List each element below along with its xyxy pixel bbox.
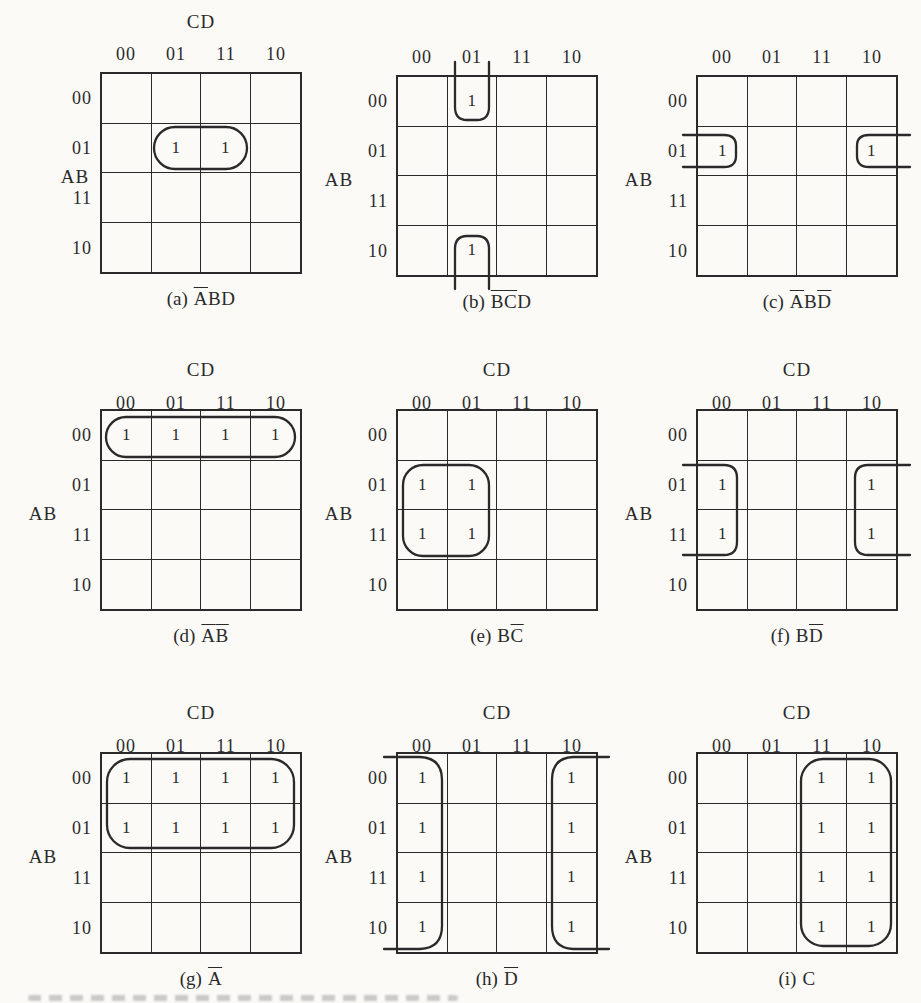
kmap-c: 00011110 AB 00011110 11 (c)ABD	[602, 14, 909, 316]
col-axis-label: CD	[697, 359, 897, 381]
negated-variable: A	[194, 288, 208, 309]
group-loops	[673, 729, 921, 977]
group-loop	[107, 759, 294, 848]
group-loop	[455, 236, 489, 289]
group-loops	[373, 52, 621, 300]
variable: C	[802, 968, 815, 989]
caption: (h)D	[397, 967, 597, 991]
group-loops	[77, 729, 325, 977]
kmap-h: CD 00011110 AB 00011110 11111111 (h)D	[302, 691, 609, 993]
caption-index: (h)	[476, 968, 498, 989]
variable: B	[208, 288, 221, 309]
group-loops	[373, 729, 621, 977]
caption-expression: ABD	[194, 288, 236, 309]
variable: B	[804, 291, 817, 312]
group-loop	[384, 757, 442, 949]
cropped-print-remnant	[28, 995, 458, 1001]
group-loop	[154, 127, 247, 169]
caption-expression: ABD	[790, 291, 832, 312]
negated-variable: D	[504, 968, 518, 989]
group-loops	[673, 386, 921, 634]
negated-variable: C	[504, 291, 517, 312]
caption: (f)BD	[697, 624, 897, 648]
variable: D	[221, 288, 235, 309]
caption-expression: BCD	[491, 291, 532, 312]
group-loops	[673, 52, 921, 300]
group-loop	[683, 465, 737, 555]
caption: (g)A	[101, 967, 301, 991]
col-axis-label: CD	[397, 359, 597, 381]
caption-expression: BD	[796, 625, 823, 646]
group-loop	[552, 757, 609, 949]
caption: (a)ABD	[101, 287, 301, 311]
group-loop	[455, 62, 489, 120]
group-loop	[855, 465, 910, 555]
variable: D	[517, 291, 531, 312]
group-loop	[801, 759, 891, 946]
kmap-a: CD 00011110 AB 00011110 11 (a)ABD	[6, 11, 313, 313]
negated-variable: A	[208, 968, 222, 989]
kmap-d: CD 00011110 AB 00011110 1111 (d)AB	[6, 348, 313, 650]
caption-expression: AB	[201, 625, 228, 646]
caption-index: (g)	[180, 968, 202, 989]
group-loops	[77, 49, 325, 297]
kmap-g: CD 00011110 AB 00011110 11111111 (g)A	[6, 691, 313, 993]
caption-expression: BC	[497, 625, 523, 646]
col-axis-label: CD	[397, 702, 597, 724]
caption: (c)ABD	[697, 290, 897, 314]
negated-variable: D	[809, 625, 823, 646]
caption: (d)AB	[101, 624, 301, 648]
negated-variable: A	[201, 625, 215, 646]
kmap-i: CD 00011110 AB 00011110 11111111 (i)C	[602, 691, 909, 993]
col-axis-label: CD	[101, 702, 301, 724]
caption: (e)BC	[397, 624, 597, 648]
col-axis-label: CD	[101, 359, 301, 381]
variable: B	[497, 625, 510, 646]
group-loop	[683, 135, 736, 167]
caption-expression: A	[208, 968, 222, 989]
caption-index: (f)	[771, 625, 790, 646]
variable: B	[796, 625, 809, 646]
kmap-f: CD 00011110 AB 00011110 1111 (f)BD	[602, 348, 909, 650]
group-loops	[373, 386, 621, 634]
caption-index: (c)	[763, 291, 784, 312]
group-loop	[106, 417, 295, 457]
caption-index: (a)	[167, 288, 188, 309]
caption-expression: D	[504, 968, 518, 989]
col-axis-label: CD	[697, 702, 897, 724]
negated-variable: C	[511, 625, 524, 646]
caption-index: (i)	[778, 968, 796, 989]
caption-expression: C	[802, 968, 815, 989]
caption-index: (b)	[463, 291, 485, 312]
caption-index: (d)	[173, 625, 195, 646]
negated-variable: A	[790, 291, 804, 312]
caption: (i)C	[697, 967, 897, 991]
caption: (b)BCD	[397, 290, 597, 314]
group-loops	[77, 386, 325, 634]
group-loop	[403, 465, 489, 556]
negated-variable: B	[491, 291, 504, 312]
kmap-e: CD 00011110 AB 00011110 1111 (e)BC	[302, 348, 609, 650]
negated-variable: D	[817, 291, 831, 312]
col-axis-label: CD	[101, 11, 301, 33]
group-loop	[857, 135, 910, 167]
kmap-b: 00011110 AB 00011110 11 (b)BCD	[302, 14, 609, 316]
caption-index: (e)	[470, 625, 491, 646]
kmap-figure-page: { "figure": { "type": "karnaugh-maps", "…	[0, 0, 921, 1003]
negated-variable: B	[216, 625, 229, 646]
